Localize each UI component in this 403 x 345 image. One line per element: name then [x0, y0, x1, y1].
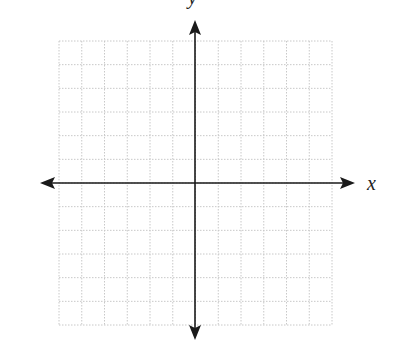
coordinate-plane: x y — [0, 0, 403, 345]
axes — [40, 20, 355, 340]
x-axis-label: x — [366, 172, 376, 194]
y-axis-label: y — [186, 0, 197, 9]
